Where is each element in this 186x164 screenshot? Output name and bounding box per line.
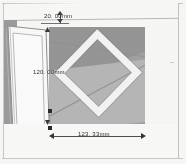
dimension-bottom-arrow-left-icon — [49, 133, 54, 139]
dimension-bottom-label[interactable]: 123. 33mm — [78, 131, 110, 138]
wall-panel-face[interactable] — [49, 27, 145, 125]
dimension-top-extension-line — [41, 23, 69, 24]
cad-viewport-screenshot: 20. 00mm 120. 00mm 123. 33mm ا — [0, 0, 186, 164]
right-edge-mark: ا — [169, 62, 175, 63]
dimension-left-label[interactable]: 120. 00mm — [33, 69, 65, 76]
page-border-right — [178, 3, 179, 159]
wall-top-band — [4, 2, 178, 21]
snap-node-marker[interactable] — [48, 126, 52, 130]
page-border-bottom — [2, 158, 183, 159]
floor-strip — [4, 124, 178, 158]
dimension-bottom-arrow-right-icon — [141, 133, 146, 139]
dimension-top-label[interactable]: 20. 00mm — [44, 13, 72, 20]
snap-node-marker[interactable] — [48, 109, 52, 113]
